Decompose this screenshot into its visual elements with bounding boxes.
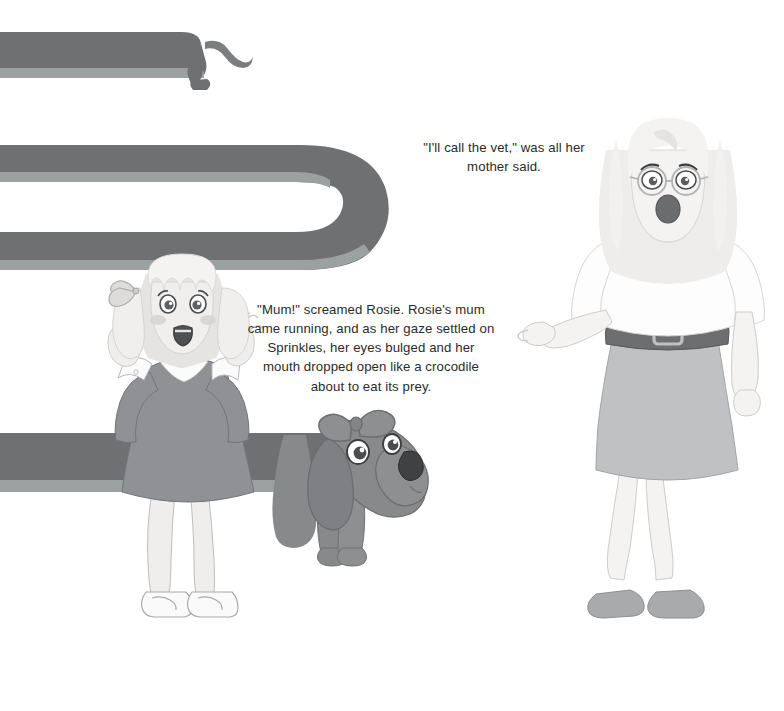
character-rosie — [108, 254, 263, 617]
caption-narration-rosie: "Mum!" screamed Rosie. Rosie's mum came … — [247, 300, 495, 396]
rosie-legs — [148, 490, 215, 594]
illustration-page: "I'll call the vet," was all her mother … — [0, 0, 784, 711]
dog-body-row-2 — [0, 145, 389, 270]
caption-mother-speech: "I'll call the vet," was all her mother … — [416, 138, 592, 176]
rosie-shoes — [142, 592, 239, 617]
character-mother — [518, 118, 764, 618]
mother-pointing-arm — [518, 310, 612, 348]
dog-body-row-1 — [0, 32, 253, 90]
